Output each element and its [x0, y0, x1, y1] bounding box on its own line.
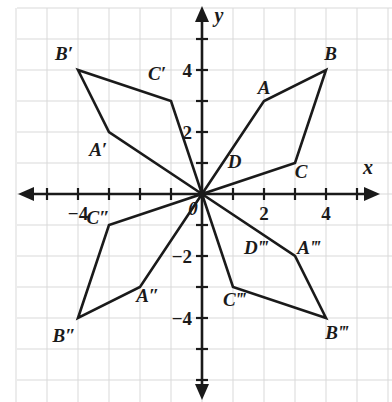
vertex-label: A′: [88, 139, 107, 160]
x-tick-label: −4: [68, 203, 89, 224]
vertex-label: D: [227, 151, 242, 172]
coordinate-plane-figure: −42442−2−40 ABCDA′B′C′A″B″C″A‴B‴C‴D‴ xy: [0, 0, 392, 402]
vertex-label: C‴: [223, 289, 247, 310]
y-tick-label: −2: [172, 246, 192, 267]
y-axis-label: y: [213, 4, 224, 27]
origin-label: 0: [188, 198, 198, 219]
x-tick-label: 2: [259, 203, 269, 224]
x-tick-label: 4: [321, 203, 331, 224]
vertex-label: C′: [148, 63, 166, 84]
vertex-label: B′: [54, 43, 73, 64]
x-axis-label: x: [362, 156, 373, 178]
y-axis-arrow-down: [195, 384, 209, 400]
y-tick-label: 2: [183, 122, 193, 143]
x-axis-arrow-right: [364, 187, 380, 201]
figure-canvas: −42442−2−40 ABCDA′B′C′A″B″C″A‴B‴C‴D‴ xy: [0, 0, 392, 402]
y-tick-label: −4: [172, 308, 193, 329]
vertex-label: A: [257, 77, 271, 98]
vertex-label: B″: [51, 325, 75, 346]
vertex-label: C″: [87, 207, 110, 228]
vertex-label: B: [323, 43, 337, 64]
vertex-label: A‴: [296, 237, 321, 258]
x-axis-arrow-left: [18, 187, 34, 201]
vertex-label: D‴: [243, 237, 269, 258]
vertex-label: C: [295, 161, 308, 182]
y-tick-label: 4: [183, 60, 193, 81]
vertex-label: A″: [135, 285, 159, 306]
vertex-label: B‴: [324, 322, 349, 343]
